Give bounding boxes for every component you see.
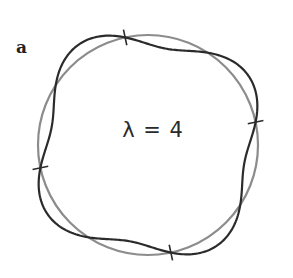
base-circle (38, 35, 258, 255)
panel-label: a (16, 37, 27, 57)
mode-label: λ = 4 (108, 118, 198, 142)
node-tick-marks (33, 30, 264, 261)
perturbed-mode-curve (39, 36, 258, 255)
figure: a λ = 4 (0, 0, 293, 278)
